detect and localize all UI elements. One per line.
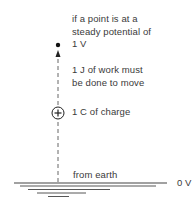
- point-dot-icon: [56, 43, 60, 47]
- label-work-2: be done to move: [72, 77, 144, 90]
- label-zero-volt: 0 V: [177, 177, 192, 190]
- earth-ground-icon: [14, 183, 167, 197]
- label-point-potential-1: if a point is at a: [72, 13, 138, 26]
- label-from-earth: from earth: [73, 169, 117, 182]
- label-point-potential-2: steady potential of: [72, 26, 151, 39]
- label-point-potential-3: 1 V: [72, 38, 87, 51]
- label-work-1: 1 J of work must: [72, 64, 143, 77]
- label-charge: 1 C of charge: [72, 106, 130, 119]
- arrowhead-icon: [56, 50, 61, 57]
